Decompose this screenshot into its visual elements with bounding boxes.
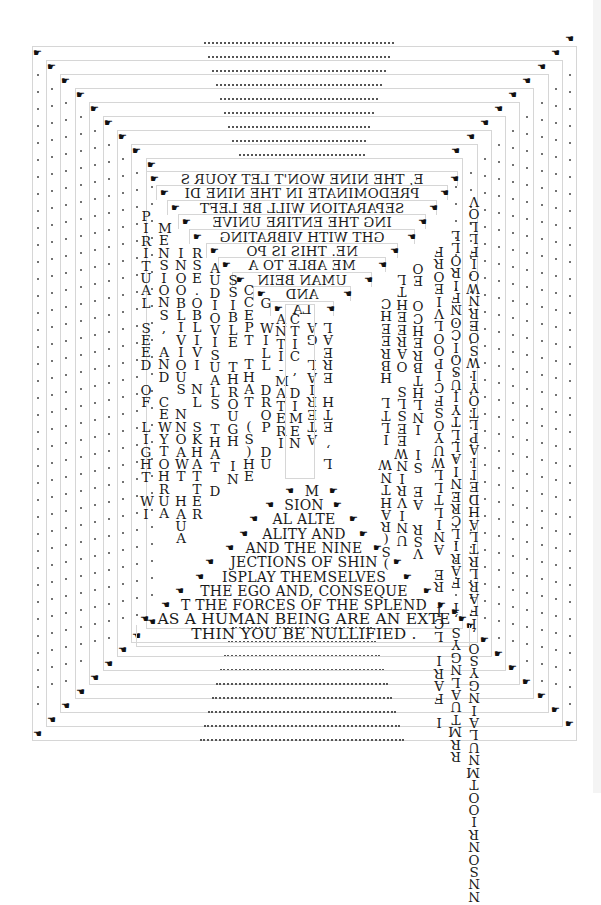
pointer-top-left-icon: ☛ bbox=[47, 62, 56, 72]
margin-dot bbox=[555, 530, 557, 532]
pointer-icon: ☛ bbox=[329, 486, 338, 496]
margin-dot bbox=[37, 261, 39, 263]
right-vertical-text-column: FROEIVLOOPICFSOYUWLLTLINA ER ICL IRAF I bbox=[433, 246, 445, 730]
margin-dot bbox=[541, 459, 543, 461]
margin-dot bbox=[37, 295, 39, 297]
margin-dot bbox=[541, 629, 543, 631]
margin-dot bbox=[37, 397, 39, 399]
margin-dot bbox=[569, 397, 571, 399]
bottom-dotted-line bbox=[208, 711, 396, 715]
margin-dot bbox=[498, 535, 500, 537]
margin-dot bbox=[80, 167, 82, 169]
margin-dot bbox=[37, 499, 39, 501]
margin-dot bbox=[80, 354, 82, 356]
margin-dot bbox=[484, 617, 486, 619]
margin-dot bbox=[484, 600, 486, 602]
margin-dot bbox=[555, 598, 557, 600]
pointer-top-right-icon: ☚ bbox=[551, 48, 560, 58]
margin-dot bbox=[498, 484, 500, 486]
margin-dot bbox=[108, 246, 110, 248]
margin-dot bbox=[541, 476, 543, 478]
margin-dot bbox=[555, 326, 557, 328]
margin-dot bbox=[94, 385, 96, 387]
pointer-icon: ☛ bbox=[222, 260, 231, 270]
margin-dot bbox=[541, 340, 543, 342]
pointer-icon: ☚ bbox=[440, 188, 449, 198]
pointer-icon: ☛ bbox=[349, 514, 358, 524]
margin-dot bbox=[484, 345, 486, 347]
pointer-icon: ☚ bbox=[140, 614, 149, 624]
top-dotted-line bbox=[239, 154, 365, 158]
margin-dot bbox=[108, 382, 110, 384]
margin-dot bbox=[555, 683, 557, 685]
margin-dot bbox=[108, 637, 110, 639]
margin-dot bbox=[555, 564, 557, 566]
margin-dot bbox=[94, 470, 96, 472]
margin-dot bbox=[541, 187, 543, 189]
pointer-bottom-left-icon: ☚ bbox=[104, 659, 113, 669]
margin-dot bbox=[569, 193, 571, 195]
margin-dot bbox=[37, 312, 39, 314]
margin-dot bbox=[484, 226, 486, 228]
margin-dot bbox=[37, 91, 39, 93]
margin-dot bbox=[80, 320, 82, 322]
margin-dot bbox=[108, 161, 110, 163]
margin-dot bbox=[569, 295, 571, 297]
margin-dot bbox=[498, 212, 500, 214]
margin-dot bbox=[94, 317, 96, 319]
column-letter: D bbox=[209, 485, 221, 497]
margin-dot bbox=[569, 686, 571, 688]
pointer-top-left-icon: ☛ bbox=[61, 76, 70, 86]
margin-dot bbox=[37, 329, 39, 331]
margin-dot bbox=[569, 652, 571, 654]
margin-dot bbox=[108, 603, 110, 605]
margin-dot bbox=[94, 589, 96, 591]
margin-dot bbox=[80, 507, 82, 509]
margin-dot bbox=[37, 159, 39, 161]
margin-dot bbox=[37, 414, 39, 416]
pointer-top-right-icon: ☚ bbox=[565, 34, 574, 44]
margin-dot bbox=[555, 615, 557, 617]
margin-dot bbox=[541, 238, 543, 240]
margin-dot bbox=[541, 255, 543, 257]
margin-dot bbox=[541, 391, 543, 393]
top-dotted-line bbox=[228, 126, 370, 130]
pointer-bottom-right-icon: ☛ bbox=[551, 705, 560, 715]
margin-dot bbox=[541, 153, 543, 155]
margin-dot bbox=[555, 241, 557, 243]
margin-dot bbox=[555, 462, 557, 464]
right-vertical-text-column: LAERE HTE ,L bbox=[322, 322, 334, 471]
pointer-top-left-icon: ☛ bbox=[104, 118, 113, 128]
pointer-icon: ☚ bbox=[175, 586, 184, 596]
margin-dot bbox=[108, 535, 110, 537]
margin-dot bbox=[37, 227, 39, 229]
margin-dot bbox=[541, 170, 543, 172]
margin-dot bbox=[108, 365, 110, 367]
right-vertical-text-column: OE OCHERBTHLNI IS EA RSV bbox=[412, 263, 424, 561]
margin-dot bbox=[484, 175, 486, 177]
margin-dot bbox=[94, 521, 96, 523]
margin-dot bbox=[37, 193, 39, 195]
column-letter: A bbox=[175, 532, 187, 544]
margin-dot bbox=[108, 314, 110, 316]
margin-dot bbox=[484, 430, 486, 432]
margin-dot bbox=[94, 130, 96, 132]
margin-dot bbox=[498, 586, 500, 588]
inner-text-frame bbox=[136, 625, 470, 647]
margin-dot bbox=[94, 572, 96, 574]
margin-dot bbox=[569, 91, 571, 93]
margin-dot bbox=[108, 484, 110, 486]
text-line: AND THE NINE bbox=[239, 541, 369, 555]
margin-dot bbox=[541, 578, 543, 580]
margin-dot bbox=[569, 210, 571, 212]
margin-dot bbox=[569, 176, 571, 178]
margin-dot bbox=[151, 560, 153, 562]
pointer-bottom-left-icon: ☚ bbox=[61, 701, 70, 711]
margin-dot bbox=[37, 584, 39, 586]
margin-dot bbox=[498, 161, 500, 163]
margin-dot bbox=[80, 456, 82, 458]
margin-dot bbox=[37, 482, 39, 484]
pointer-icon: ☚ bbox=[407, 232, 416, 242]
pointer-icon: ☛ bbox=[403, 572, 412, 582]
pointer-top-right-icon: ☚ bbox=[480, 118, 489, 128]
